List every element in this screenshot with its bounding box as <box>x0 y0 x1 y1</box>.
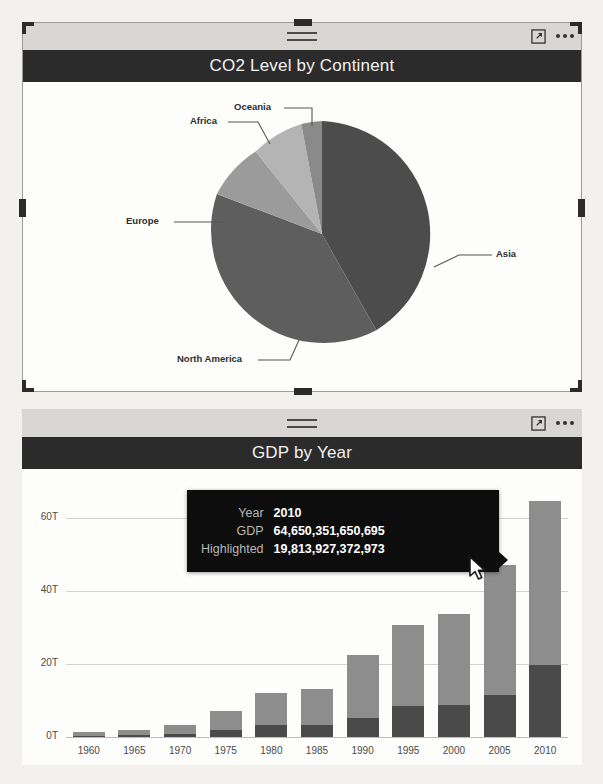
resize-handle-top-center[interactable] <box>294 19 312 26</box>
visual-co2-level-by-continent[interactable]: CO2 Level by Continent <box>22 22 582 392</box>
x-axis-tick-label: 1970 <box>157 745 203 756</box>
pie-label-asia: Asia <box>496 248 516 259</box>
bar-segment-highlighted[interactable] <box>347 718 379 737</box>
tooltip-value-highlighted: 19,813,927,372,973 <box>274 540 385 558</box>
bar-segment-highlighted[interactable] <box>438 705 470 737</box>
bar-segment-highlighted[interactable] <box>255 725 287 737</box>
tooltip-key-gdp: GDP <box>201 522 274 540</box>
resize-handle-bottom-center[interactable] <box>294 388 312 395</box>
bar-2005[interactable] <box>484 565 516 737</box>
tooltip-value-year: 2010 <box>274 504 385 522</box>
resize-handle-top-left[interactable] <box>22 22 34 34</box>
more-options-icon[interactable] <box>556 421 574 425</box>
bar-1965[interactable] <box>118 730 150 737</box>
visual-gdp-by-year[interactable]: GDP by Year 0T20T40T60T19601965197019751… <box>22 409 582 765</box>
pie-label-oceania: Oceania <box>234 101 271 112</box>
resize-handle-bottom-left[interactable] <box>22 380 34 392</box>
tooltip-value-gdp: 64,650,351,650,695 <box>274 522 385 540</box>
visual-header-pie[interactable] <box>22 22 582 50</box>
bar-segment-highlighted[interactable] <box>392 706 424 737</box>
x-axis-tick-label: 1985 <box>294 745 340 756</box>
x-axis-tick-label: 1965 <box>112 745 158 756</box>
y-axis-tick-label: 20T <box>30 657 58 668</box>
bar-segment-highlighted[interactable] <box>529 665 561 737</box>
bar-1970[interactable] <box>164 725 196 737</box>
callout-line-north-america <box>258 340 299 360</box>
bar-1960[interactable] <box>73 732 105 737</box>
bar-2000[interactable] <box>438 614 470 737</box>
resize-handle-top-right[interactable] <box>570 22 582 34</box>
visual-title-bar: GDP by Year <box>22 437 582 469</box>
resize-handle-right-middle[interactable] <box>578 199 585 217</box>
x-axis-tick-label: 1975 <box>203 745 249 756</box>
bar-segment-highlighted[interactable] <box>484 695 516 737</box>
drag-handle-icon[interactable] <box>287 419 317 428</box>
visual-header-bar[interactable] <box>22 409 582 437</box>
visual-header-tools <box>531 22 574 50</box>
bar-2010[interactable] <box>529 501 561 737</box>
pie-label-north-america: North America <box>177 353 242 364</box>
x-axis-tick-label: 1990 <box>340 745 386 756</box>
x-axis-tick-label: 1980 <box>249 745 295 756</box>
y-axis-tick-label: 60T <box>30 511 58 522</box>
focus-mode-icon[interactable] <box>531 416 546 431</box>
bar-1985[interactable] <box>301 689 333 737</box>
bar-1975[interactable] <box>210 711 242 737</box>
tooltip-beak <box>499 552 508 568</box>
tooltip-table: Year 2010 GDP 64,650,351,650,695 Highlig… <box>201 504 385 558</box>
x-axis-tick-label: 2010 <box>522 745 568 756</box>
resize-handle-left-middle[interactable] <box>19 199 26 217</box>
y-axis-tick-label: 40T <box>30 584 58 595</box>
bar-segment-highlighted[interactable] <box>73 736 105 737</box>
more-options-icon[interactable] <box>556 34 574 38</box>
pie-chart-plot-area[interactable]: Asia North America Europe Africa Oceania <box>22 82 582 392</box>
x-axis-tick-label: 2005 <box>477 745 523 756</box>
bar-segment-highlighted[interactable] <box>164 734 196 737</box>
gridline <box>66 737 568 738</box>
bar-segment-highlighted[interactable] <box>301 725 333 737</box>
x-axis-tick-label: 1960 <box>66 745 112 756</box>
bar-segment-highlighted[interactable] <box>118 735 150 737</box>
callout-line-africa <box>228 122 270 144</box>
visual-header-tools <box>531 409 574 437</box>
bar-1990[interactable] <box>347 655 379 737</box>
tooltip-row: Year 2010 <box>201 504 385 522</box>
focus-mode-icon[interactable] <box>531 29 546 44</box>
pie-label-europe: Europe <box>126 215 159 226</box>
bar-segment-highlighted[interactable] <box>210 730 242 737</box>
bar-1995[interactable] <box>392 625 424 737</box>
resize-handle-bottom-right[interactable] <box>570 380 582 392</box>
report-canvas: CO2 Level by Continent <box>0 0 603 784</box>
tooltip-row: Highlighted 19,813,927,372,973 <box>201 540 385 558</box>
pie-chart-svg[interactable] <box>22 82 582 392</box>
y-axis-tick-label: 0T <box>30 730 58 741</box>
tooltip-key-highlighted: Highlighted <box>201 540 274 558</box>
tooltip-row: GDP 64,650,351,650,695 <box>201 522 385 540</box>
bar-1980[interactable] <box>255 693 287 737</box>
x-axis-tick-label: 2000 <box>431 745 477 756</box>
drag-handle-icon[interactable] <box>287 32 317 41</box>
chart-tooltip: Year 2010 GDP 64,650,351,650,695 Highlig… <box>187 490 499 572</box>
x-axis-tick-label: 1995 <box>385 745 431 756</box>
pie-label-africa: Africa <box>190 115 217 126</box>
visual-title-pie: CO2 Level by Continent <box>22 50 582 82</box>
tooltip-key-year: Year <box>201 504 274 522</box>
callout-line-asia <box>434 255 492 267</box>
